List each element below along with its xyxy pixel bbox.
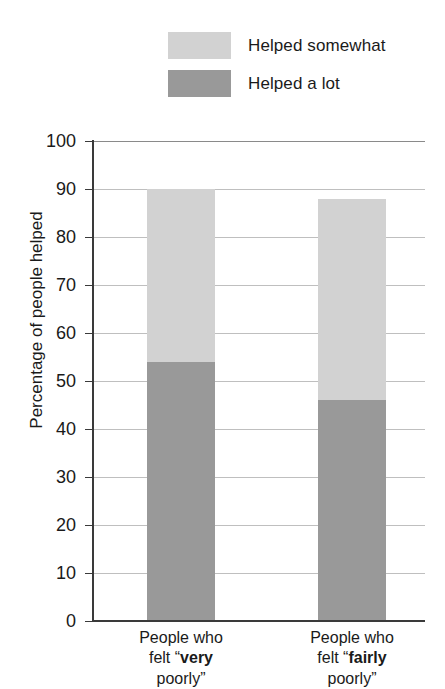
y-tick-label-30: 30 [28, 468, 76, 486]
y-tick-label-100: 100 [28, 132, 76, 150]
x-label-very-poorly: People who felt “very poorly” [91, 628, 271, 689]
x-label-line2-pre: felt “ [149, 649, 180, 666]
y-tick-label-70: 70 [28, 276, 76, 294]
x-label-line1: People who [91, 628, 271, 648]
gridline-100 [93, 141, 425, 142]
x-label-fairly-poorly: People who felt “fairly poorly” [262, 628, 442, 689]
plot-area [93, 141, 425, 621]
bar-segment-helped-somewhat[interactable] [147, 189, 215, 362]
bar-segment-helped-a-lot[interactable] [147, 362, 215, 621]
x-label-line2: felt “fairly [262, 648, 442, 668]
bar-segment-helped-somewhat[interactable] [318, 199, 386, 401]
y-tick-label-80: 80 [28, 228, 76, 246]
y-tick-label-0: 0 [28, 612, 76, 630]
gridline-90 [93, 189, 425, 190]
x-label-line3: poorly” [91, 669, 271, 689]
x-label-line2-bold: very [180, 649, 213, 666]
y-tick-label-40: 40 [28, 420, 76, 438]
x-label-line2-bold: fairly [348, 649, 386, 666]
x-label-line3: poorly” [262, 669, 442, 689]
bar-very-poorly[interactable] [147, 189, 215, 621]
x-label-line1: People who [262, 628, 442, 648]
y-tick-label-60: 60 [28, 324, 76, 342]
y-axis-line [92, 140, 94, 622]
y-tick-label-20: 20 [28, 516, 76, 534]
y-tick-label-50: 50 [28, 372, 76, 390]
bar-fairly-poorly[interactable] [318, 199, 386, 621]
x-axis-line [92, 620, 425, 622]
y-tick-label-10: 10 [28, 564, 76, 582]
x-label-line2-pre: felt “ [317, 649, 348, 666]
bar-segment-helped-a-lot[interactable] [318, 400, 386, 621]
x-label-line2: felt “very [91, 648, 271, 668]
y-tick-label-90: 90 [28, 180, 76, 198]
